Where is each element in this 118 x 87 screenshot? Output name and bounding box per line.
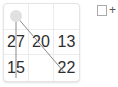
add-checkbox[interactable] bbox=[97, 5, 107, 16]
game-board: 27 20 13 15 22 bbox=[3, 3, 80, 82]
cell-r2-c2[interactable]: 22 bbox=[54, 55, 79, 81]
cell-r1-c2[interactable]: 13 bbox=[54, 30, 79, 56]
cell-r2-c0[interactable]: 15 bbox=[4, 55, 29, 81]
cell-r2-c1[interactable] bbox=[29, 55, 54, 81]
board-grid: 27 20 13 15 22 bbox=[4, 4, 79, 81]
cell-r0-c1[interactable] bbox=[29, 4, 54, 30]
cell-r0-c0[interactable] bbox=[4, 4, 29, 30]
cell-r1-c0[interactable]: 27 bbox=[4, 30, 29, 56]
cell-r1-c1[interactable]: 20 bbox=[29, 30, 54, 56]
plus-icon[interactable]: + bbox=[109, 3, 116, 17]
cell-r0-c2[interactable] bbox=[54, 4, 79, 30]
